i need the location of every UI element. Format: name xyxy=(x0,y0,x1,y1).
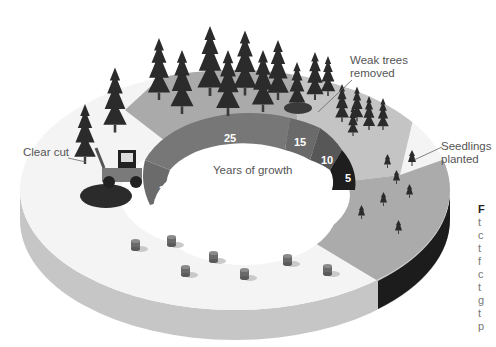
clear-cut-label: Clear cut xyxy=(23,146,69,159)
seedlings-label: Seedlings planted xyxy=(441,140,492,166)
center-label: Years of growth xyxy=(213,164,292,176)
year-30: 30 xyxy=(159,184,171,196)
year-25: 25 xyxy=(224,132,236,144)
year-10: 10 xyxy=(321,154,333,166)
weak-trees-label: Weak trees removed xyxy=(350,54,408,80)
year-5: 5 xyxy=(345,172,351,184)
caption-text-cropped: F t c t f c t g t p xyxy=(478,203,496,333)
year-15: 15 xyxy=(294,136,306,148)
